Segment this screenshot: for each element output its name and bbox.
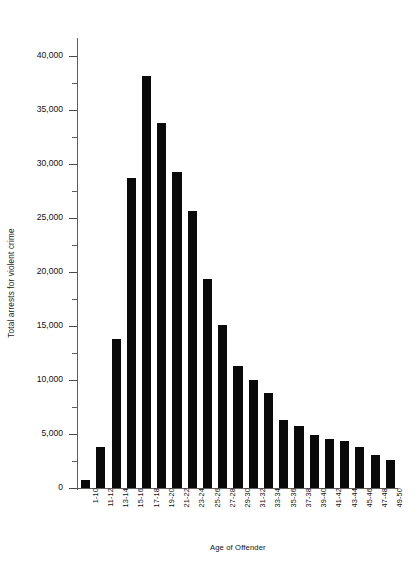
x-tick-label: 33-34 (272, 488, 284, 534)
y-tick-label: 0 (58, 482, 63, 492)
bar (340, 441, 349, 489)
x-tick-label: 49-50 (394, 488, 406, 534)
y-tick-mark (69, 56, 77, 57)
bar (355, 447, 364, 488)
bar (112, 339, 121, 488)
y-tick-mark (69, 434, 77, 435)
bar (142, 76, 151, 488)
y-tick-mark (69, 272, 77, 273)
x-tick-label: 45-46 (364, 488, 376, 534)
y-tick-mark (72, 461, 77, 462)
y-tick-label: 5,000 (41, 428, 63, 438)
bar (371, 455, 380, 488)
y-tick-mark (72, 299, 77, 300)
x-axis-tick-labels: 1-1011-1213-1415-1617-1819-2021-2223-242… (78, 490, 398, 536)
x-tick-label: 31-32 (257, 488, 269, 534)
y-tick-label: 20,000 (37, 266, 63, 276)
x-tick-label: 21-22 (181, 488, 193, 534)
x-tick-label: 1-10 (90, 488, 102, 534)
x-tick-label: 15-16 (135, 488, 147, 534)
y-tick-mark (72, 353, 77, 354)
x-tick-label: 27-28 (227, 488, 239, 534)
x-tick-label: 47-48 (379, 488, 391, 534)
bar (188, 211, 197, 488)
y-tick-mark (72, 137, 77, 138)
x-tick-label: 23-24 (196, 488, 208, 534)
x-tick-label: 35-36 (288, 488, 300, 534)
bar (96, 447, 105, 488)
x-tick-label: 43-44 (349, 488, 361, 534)
x-tick-label: 39-40 (318, 488, 330, 534)
y-tick-mark (72, 407, 77, 408)
bar (325, 439, 334, 488)
y-tick-label: 10,000 (37, 374, 63, 384)
y-tick-mark (72, 245, 77, 246)
y-tick-label: 35,000 (37, 104, 63, 114)
y-tick-label: 25,000 (37, 212, 63, 222)
bar (279, 420, 288, 488)
y-tick-mark (69, 164, 77, 165)
x-tick-label: 17-18 (151, 488, 163, 534)
x-tick-label: 19-20 (166, 488, 178, 534)
y-tick-mark (69, 326, 77, 327)
bar (294, 426, 303, 488)
y-tick-label: 40,000 (37, 50, 63, 60)
y-tick-mark (72, 83, 77, 84)
bar (81, 480, 90, 488)
bar (203, 279, 212, 488)
x-tick-label: 13-14 (120, 488, 132, 534)
bar (233, 366, 242, 488)
bar-chart: Total arrests for violent crime 05,00010… (0, 0, 420, 566)
x-tick-label: 25-26 (212, 488, 224, 534)
bar (127, 178, 136, 488)
bar (157, 123, 166, 488)
bar (172, 172, 181, 488)
y-tick-mark (72, 191, 77, 192)
bar-series (78, 40, 398, 488)
bar (218, 325, 227, 488)
bar (249, 380, 258, 488)
x-tick-label: 37-38 (303, 488, 315, 534)
y-tick-mark (69, 488, 77, 489)
bar (386, 460, 395, 488)
y-tick-label: 30,000 (37, 158, 63, 168)
x-tick-label: 29-30 (242, 488, 254, 534)
y-axis-title: Total arrests for violent crime (0, 0, 22, 566)
bar (310, 435, 319, 488)
x-tick-label: 11-12 (105, 488, 117, 534)
y-tick-mark (69, 218, 77, 219)
x-axis-title: Age of Offender (210, 543, 266, 552)
y-tick-mark (69, 110, 77, 111)
bar (264, 393, 273, 488)
y-tick-label: 15,000 (37, 320, 63, 330)
y-tick-mark (69, 380, 77, 381)
x-tick-label: 41-42 (333, 488, 345, 534)
